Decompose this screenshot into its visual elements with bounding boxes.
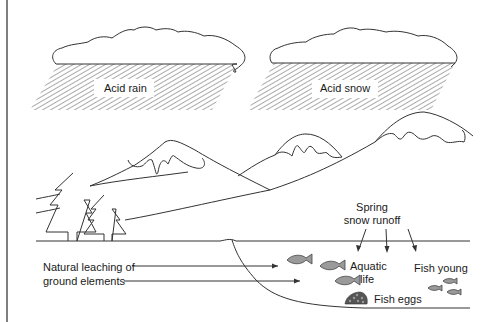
acid-snow-cloud: Acid snow [248,28,457,110]
fish-young-label: Fish young [414,262,468,274]
acid-precipitation-diagram: Acid rain Acid snow [0,0,498,322]
mountains [36,112,473,220]
spring-runoff-label-line1: Spring [356,201,388,213]
leaching-arrows [124,264,300,284]
leaching-label-line1: Natural leaching of [43,261,136,273]
fish-eggs-label: Fish eggs [374,293,422,305]
young-fish [428,278,461,295]
pine-trees [46,173,126,241]
aquatic-life-label-line1: Aquatic [350,260,387,272]
aquatic-life-label-line2: life [360,273,374,285]
spring-runoff-label-line2: snow runoff [344,214,402,226]
leaching-label-line2: ground elements [43,275,125,287]
fish-eggs-cluster [345,292,367,304]
acid-rain-cloud: Acid rain [30,27,245,110]
acid-snow-label: Acid snow [320,82,370,94]
acid-rain-label: Acid rain [104,82,147,94]
